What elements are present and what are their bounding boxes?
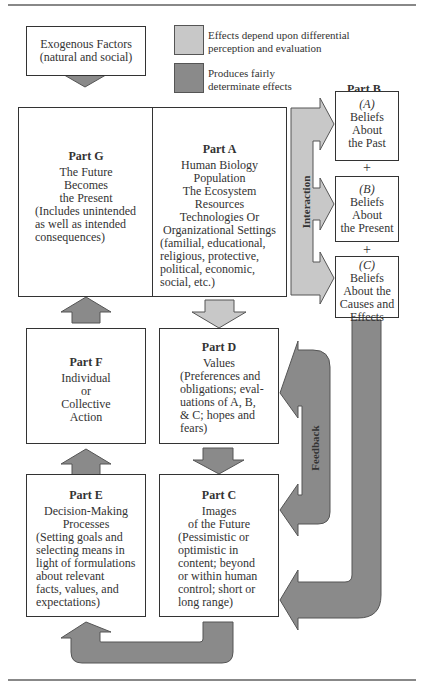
legend-light-text: Effects depend upon differential percept… (208, 29, 350, 55)
part-d-box: Part D Values (Preferences and obligatio… (159, 328, 279, 444)
part-g-box: Part G The Future Becomes the Present (I… (18, 107, 154, 297)
part-f-box: Part F Individual or Collective Action (26, 328, 146, 444)
part-a-box: Part A Human Biology Population The Ecos… (152, 107, 287, 297)
part-b-a-box: (A) Beliefs About the Past (335, 91, 399, 161)
interaction-arrow (291, 98, 334, 304)
part-c-box: Part C Images of the Future (Pessimistic… (159, 474, 279, 617)
arrow-d-to-c (193, 448, 244, 474)
arrow-e-to-f (61, 449, 111, 475)
arrow-a-to-d (192, 300, 246, 328)
plus-sign: + (357, 160, 377, 176)
legend-dark-text: Produces fairly determinate effects (208, 67, 292, 93)
interaction-label: Interaction (300, 167, 312, 237)
arrow-f-to-g (61, 297, 111, 323)
c-to-e-arrow (61, 622, 233, 663)
part-b-c-box: (C) Beliefs About the Causes and Effects (335, 256, 399, 318)
feedback-label: Feedback (309, 418, 321, 478)
part-b-b-box: (B) Beliefs About the Present (335, 176, 399, 242)
legend-dark-swatch (174, 63, 204, 93)
legend-light-swatch (174, 25, 204, 55)
part-e-box: Part E Decision-Making Processes (Settin… (26, 474, 146, 617)
exogenous-factors-box: Exogenous Factors (natural and social) (26, 26, 146, 76)
